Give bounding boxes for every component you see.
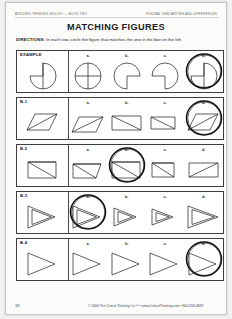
option-figure	[69, 59, 108, 93]
option-label: d.	[202, 148, 206, 152]
option-figure	[69, 106, 108, 140]
directions-label: DIRECTIONS:	[16, 37, 45, 42]
reference-figure	[17, 59, 68, 93]
option-figure	[146, 106, 185, 140]
option-label: a.	[87, 54, 90, 58]
option-figure	[108, 153, 147, 187]
option-label: d.	[202, 101, 206, 105]
reference-cell: B-2	[17, 145, 69, 186]
page-number: 18	[15, 303, 19, 308]
directions: DIRECTIONS: In each row, circle the figu…	[16, 37, 222, 42]
problem-row: B-4a.b.c.d.	[16, 238, 224, 281]
option-figure	[185, 200, 224, 234]
option-label: a.	[87, 101, 90, 105]
option-cell-a[interactable]: a.	[69, 145, 108, 186]
option-label: c.	[164, 242, 167, 246]
option-cell-c[interactable]: c.	[146, 239, 185, 280]
option-cell-d[interactable]: d.	[185, 145, 224, 186]
reference-figure	[17, 106, 68, 140]
option-cell-b[interactable]: b.	[108, 145, 147, 186]
reference-cell: EXAMPLE	[17, 51, 69, 92]
option-figure	[185, 153, 224, 187]
option-cell-d[interactable]: d.	[185, 98, 224, 139]
option-cell-c[interactable]: c.	[146, 98, 185, 139]
option-cell-a[interactable]: a.	[69, 51, 108, 92]
option-label: a.	[87, 195, 90, 199]
worksheet-sheet: Building Thinking Skills® — Book Two Fig…	[5, 2, 227, 315]
option-figure	[185, 247, 224, 281]
option-label: d.	[202, 242, 206, 246]
option-figure	[69, 153, 108, 187]
option-cell-a[interactable]: a.	[69, 239, 108, 280]
option-label: c.	[164, 148, 167, 152]
option-figure	[69, 200, 108, 234]
option-figure	[108, 106, 147, 140]
option-label: a.	[87, 148, 90, 152]
option-figure	[146, 59, 185, 93]
problem-rows: EXAMPLEa.b.c.d.B-1a.b.c.d.B-2a.b.c.d.B-3…	[16, 50, 224, 285]
option-cell-c[interactable]: c.	[146, 192, 185, 233]
option-label: b.	[125, 148, 129, 152]
page-footer: 18 © 2006 The Critical Thinking Co.™ • w…	[6, 303, 226, 308]
reference-cell: B-1	[17, 98, 69, 139]
option-label: a.	[87, 242, 90, 246]
option-figure	[185, 106, 224, 140]
option-label: d.	[202, 195, 206, 199]
reference-figure	[17, 200, 68, 234]
reference-figure	[17, 247, 68, 281]
option-figure	[108, 200, 147, 234]
problem-row: B-2a.b.c.d.	[16, 144, 224, 187]
option-cell-b[interactable]: b.	[108, 192, 147, 233]
row-label: EXAMPLE	[20, 53, 42, 57]
option-figure	[146, 153, 185, 187]
problem-row: B-1a.b.c.d.	[16, 97, 224, 140]
option-label: c.	[164, 54, 167, 58]
option-figure	[108, 59, 147, 93]
option-cell-c[interactable]: c.	[146, 145, 185, 186]
reference-figure	[17, 153, 68, 187]
option-figure	[146, 200, 185, 234]
worksheet-page: Building Thinking Skills® — Book Two Fig…	[0, 0, 232, 319]
option-cell-a[interactable]: a.	[69, 192, 108, 233]
running-head-right: Figural Similarities and Differences	[146, 12, 217, 16]
option-cell-a[interactable]: a.	[69, 98, 108, 139]
option-cell-d[interactable]: d.	[185, 192, 224, 233]
option-cell-b[interactable]: b.	[108, 98, 147, 139]
page-title: MATCHING FIGURES	[6, 22, 226, 32]
row-label: B-4	[20, 241, 27, 245]
option-label: b.	[125, 242, 129, 246]
option-label: b.	[125, 101, 129, 105]
copyright-credit: © 2006 The Critical Thinking Co.™ • www.…	[88, 304, 203, 308]
option-cell-d[interactable]: d.	[185, 239, 224, 280]
option-figure	[108, 247, 147, 281]
option-cell-b[interactable]: b.	[108, 51, 147, 92]
option-label: c.	[164, 195, 167, 199]
directions-text: In each row, circle the figure that matc…	[45, 37, 182, 42]
problem-row: EXAMPLEa.b.c.d.	[16, 50, 224, 93]
row-label: B-1	[20, 100, 27, 104]
problem-row: B-3a.b.c.d.	[16, 191, 224, 234]
row-label: B-3	[20, 194, 27, 198]
row-label: B-2	[20, 147, 27, 151]
reference-cell: B-4	[17, 239, 69, 280]
option-label: c.	[164, 101, 167, 105]
option-label: d.	[202, 54, 206, 58]
option-figure	[185, 59, 224, 93]
option-figure	[146, 247, 185, 281]
option-cell-b[interactable]: b.	[108, 239, 147, 280]
option-label: b.	[125, 195, 129, 199]
header-divider	[15, 17, 219, 18]
option-cell-c[interactable]: c.	[146, 51, 185, 92]
option-figure	[69, 247, 108, 281]
option-cell-d[interactable]: d.	[185, 51, 224, 92]
option-label: b.	[125, 54, 129, 58]
reference-cell: B-3	[17, 192, 69, 233]
running-head-left: Building Thinking Skills® — Book Two	[15, 12, 87, 16]
